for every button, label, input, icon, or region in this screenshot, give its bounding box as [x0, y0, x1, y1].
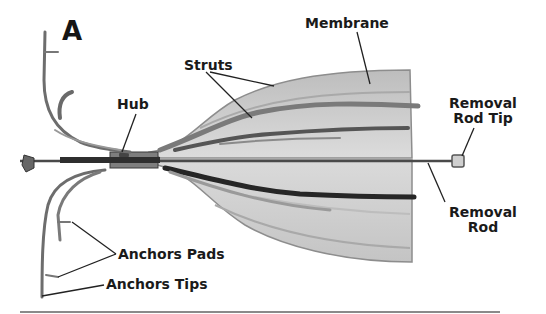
anchors-upper: [44, 32, 130, 152]
membrane: [150, 70, 412, 262]
label-anchors-pads: Anchors Pads: [118, 247, 224, 262]
leader-anchors-pads-1: [72, 222, 116, 254]
label-removal-rod: Removal Rod: [440, 205, 526, 235]
leader-hub: [122, 114, 136, 152]
label-hub: Hub: [117, 97, 149, 112]
label-removal-rod-line1: Removal: [440, 205, 526, 220]
label-struts: Struts: [184, 58, 233, 73]
leader-anchors-tips: [42, 285, 104, 296]
anchors-lower: [42, 170, 105, 297]
filter-diagram-illustration: [0, 0, 546, 314]
figure-panel-a: A Membrane Struts Hub Removal Rod Tip Re…: [0, 0, 546, 314]
label-membrane: Membrane: [305, 16, 389, 31]
leader-struts-2: [210, 72, 274, 86]
leader-removal-rod: [428, 163, 445, 202]
leader-anchors-pads-2: [58, 254, 116, 277]
panel-letter: A: [62, 16, 82, 46]
leader-removal-rod-tip: [462, 128, 474, 156]
label-removal-rod-tip-line1: Removal: [440, 96, 526, 111]
label-removal-rod-tip: Removal Rod Tip: [440, 96, 526, 126]
label-removal-rod-line2: Rod: [440, 220, 526, 235]
removal-rod-tip: [452, 155, 464, 167]
label-removal-rod-tip-line2: Rod Tip: [440, 111, 526, 126]
label-anchors-tips: Anchors Tips: [106, 277, 208, 292]
